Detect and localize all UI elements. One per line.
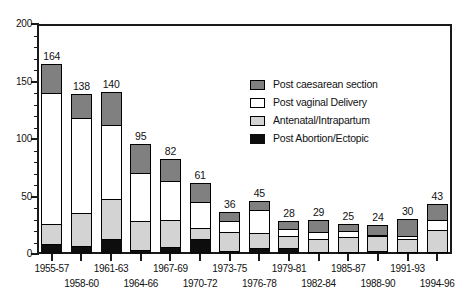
bar-total-label: 164 — [32, 51, 72, 62]
bar-column — [41, 65, 62, 254]
legend-item: Post Abortion/Ectopic — [250, 130, 440, 147]
x-axis-tick-label: 1982-84 — [295, 278, 343, 289]
bar-total-label: 82 — [150, 146, 190, 157]
legend-item-label: Antenatal/Intrapartum — [273, 115, 370, 126]
x-axis-tick-label: 1994-96 — [413, 278, 461, 289]
x-tick — [110, 254, 112, 261]
bar-column — [190, 184, 211, 254]
bar-segment — [219, 232, 240, 251]
bar-total-label: 45 — [239, 188, 279, 199]
x-tick — [199, 254, 201, 261]
bar-segment — [130, 144, 151, 174]
bar-segment — [101, 199, 122, 240]
bar-segment — [71, 246, 92, 254]
y-axis-tick-label: 0 — [4, 249, 32, 259]
legend-item: Post caesarean section — [250, 76, 440, 93]
bar-segment — [160, 181, 181, 221]
bar-segment — [160, 159, 181, 182]
legend-swatch-icon — [250, 98, 265, 108]
bar-segment — [219, 212, 240, 222]
x-tick — [288, 254, 290, 261]
bar-segment — [249, 201, 270, 211]
x-axis-tick-label: 1988-90 — [354, 278, 402, 289]
bar-segment — [160, 220, 181, 249]
bar-column — [101, 93, 122, 254]
bar-segment — [308, 220, 329, 234]
bar-segment — [71, 118, 92, 213]
bar-column — [308, 221, 329, 254]
bar-column — [397, 220, 418, 255]
y-axis-tick-label: 100 — [4, 134, 32, 144]
bar-total-label: 30 — [388, 206, 428, 217]
bar-segment — [427, 220, 448, 231]
bar-segment — [308, 239, 329, 253]
x-axis-tick-label: 1973-75 — [206, 263, 254, 274]
bar-segment — [160, 247, 181, 254]
bar-segment — [219, 221, 240, 234]
x-tick — [436, 254, 438, 261]
bar-segment — [190, 239, 211, 254]
bar-segment — [397, 239, 418, 253]
bar-column — [249, 202, 270, 254]
bar-segment — [130, 221, 151, 251]
bar-column — [71, 95, 92, 254]
x-tick — [347, 254, 349, 261]
bar-segment — [71, 94, 92, 119]
y-axis-tick-label: 150 — [4, 77, 32, 87]
x-axis-tick-label: 1991-93 — [384, 263, 432, 274]
x-tick — [169, 254, 171, 261]
bar-segment — [427, 204, 448, 221]
bar-segment — [41, 244, 62, 254]
bar-segment — [190, 183, 211, 204]
bar-segment — [338, 231, 359, 238]
bar-segment — [397, 219, 418, 237]
bar-segment — [308, 232, 329, 240]
bar-total-label: 43 — [417, 191, 457, 202]
bar-column — [219, 213, 240, 254]
bar-segment — [71, 213, 92, 247]
x-axis-tick-label: 1970-72 — [176, 278, 224, 289]
bar-total-label: 61 — [180, 170, 220, 181]
bar-segment — [367, 225, 388, 235]
bar-total-label: 140 — [91, 79, 131, 90]
bar-segment — [338, 224, 359, 232]
bar-total-label: 36 — [210, 199, 250, 210]
x-axis-tick-label: 1985-87 — [324, 263, 372, 274]
bar-segment — [101, 239, 122, 254]
x-axis-tick-label: 1967-69 — [146, 263, 194, 274]
stacked-bar-chart: 050100150200 164138140958261364528292524… — [0, 0, 466, 306]
x-tick — [318, 254, 320, 261]
x-axis-tick-label: 1979-81 — [265, 263, 313, 274]
y-axis-tick-label: 200 — [4, 19, 32, 29]
x-tick — [407, 254, 409, 261]
bar-total-label: 95 — [121, 131, 161, 142]
legend-item-label: Post vaginal Delivery — [273, 97, 367, 108]
x-tick — [140, 254, 142, 261]
x-axis-tick-label: 1958-60 — [57, 278, 105, 289]
x-tick — [258, 254, 260, 261]
bar-segment — [130, 173, 151, 222]
bar-segment — [249, 233, 270, 249]
legend-item-label: Post caesarean section — [273, 79, 378, 90]
x-axis-tick-label: 1955-57 — [28, 263, 76, 274]
x-tick — [377, 254, 379, 261]
legend-swatch-icon — [250, 80, 265, 90]
bar-segment — [278, 229, 299, 237]
bar-column — [338, 225, 359, 254]
legend-swatch-icon — [250, 116, 265, 126]
bar-column — [130, 145, 151, 254]
bar-column — [160, 160, 181, 254]
x-axis-tick-label: 1961-63 — [87, 263, 135, 274]
bar-column — [278, 222, 299, 254]
bar-segment — [427, 230, 448, 253]
bar-column — [427, 205, 448, 254]
x-axis-tick-label: 1976-78 — [235, 278, 283, 289]
bar-segment — [190, 202, 211, 228]
bar-segment — [278, 236, 299, 250]
bar-segment — [338, 237, 359, 253]
bar-column — [367, 226, 388, 254]
x-tick — [229, 254, 231, 261]
y-axis-tick-label: 50 — [4, 192, 32, 202]
bar-segment — [249, 210, 270, 234]
x-axis-tick-label: 1964-66 — [117, 278, 165, 289]
